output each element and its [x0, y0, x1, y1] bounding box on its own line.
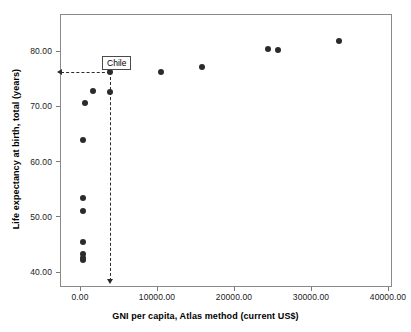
x-tick-mark: [234, 287, 235, 291]
x-tick-label-40000: 40000.00: [353, 292, 411, 302]
y-tick-mark: [56, 216, 60, 217]
y-tick-mark: [56, 106, 60, 107]
annotation-label-chile: Chile: [102, 56, 131, 70]
x-axis-title: GNI per capita, Atlas method (current US…: [0, 311, 411, 321]
y-axis-title: Life expectancy at birth, total (years): [11, 49, 21, 249]
annotation-guide-vertical: [110, 72, 111, 281]
annotation-arrow-down-icon: [107, 279, 113, 284]
y-tick-label-70: 70.00: [0, 101, 52, 111]
y-tick-label-80: 80.00: [0, 46, 52, 56]
y-tick-mark: [56, 51, 60, 52]
x-tick-label-30000: 30000.00: [276, 292, 346, 302]
annotation-arrow-left-icon: [57, 69, 62, 75]
y-tick-label-50: 50.00: [0, 212, 52, 222]
x-tick-label-20000: 20000.00: [199, 292, 269, 302]
y-tick-mark: [56, 161, 60, 162]
data-point: [80, 195, 86, 201]
annotation-guide-horizontal: [61, 72, 110, 73]
data-point: [158, 69, 164, 75]
y-tick-mark: [56, 272, 60, 273]
data-point: [275, 47, 281, 53]
y-tick-label-60: 60.00: [0, 157, 52, 167]
x-tick-mark: [311, 287, 312, 291]
x-tick-mark: [157, 287, 158, 291]
x-tick-mark: [80, 287, 81, 291]
x-tick-mark: [388, 287, 389, 291]
y-tick-label-40: 40.00: [0, 267, 52, 277]
scatter-chart: 40.00 50.00 60.00 70.00 80.00 0.00 10000…: [0, 0, 411, 332]
x-tick-label-10000: 10000.00: [122, 292, 192, 302]
data-point: [90, 88, 96, 94]
data-point: [80, 208, 86, 214]
x-tick-label-0: 0.00: [50, 292, 110, 302]
data-point: [199, 64, 205, 70]
